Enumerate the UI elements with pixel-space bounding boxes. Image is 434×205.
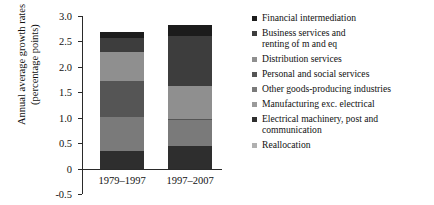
y-tick: -0.5 [78,194,82,195]
legend-label: Financial intermediation [262,12,356,23]
bar-segment[interactable] [168,146,212,168]
bar-segment[interactable] [100,52,144,81]
legend-label: Manufacturing exc. electrical [262,98,375,109]
legend-label: Distribution services [262,53,342,64]
y-tick-label: 2.5 [59,36,72,47]
bar-segment[interactable] [100,151,144,168]
y-axis-line [82,16,83,194]
legend-swatch-icon [252,31,257,36]
legend-swatch-icon [252,102,257,107]
legend-label: Other goods-producing industries [262,83,391,94]
legend-item[interactable]: Manufacturing exc. electrical [252,98,432,109]
y-tick-label: 1.0 [59,112,72,123]
bar-segment[interactable] [168,120,212,146]
bar-segment[interactable] [168,86,212,120]
y-tick-label: 2.0 [59,61,72,72]
bar-segment[interactable] [100,32,144,39]
legend-swatch-icon [252,143,257,148]
legend-item[interactable]: Distribution services [252,53,432,64]
y-tick: 2.5 [78,41,82,42]
legend-label: Personal and social services [262,68,369,79]
x-axis-label: 1997–2007 [166,175,213,186]
legend-swatch-icon [252,87,257,92]
legend-item[interactable]: Personal and social services [252,68,432,79]
y-tick-label: -0.5 [55,189,72,200]
legend-swatch-icon [252,57,257,62]
y-tick-label: 3.0 [59,11,72,22]
y-tick: 1.5 [78,92,82,93]
y-tick: 0.5 [78,143,82,144]
plot-area: 3.02.52.01.51.00.50-0.5 1979–19971997–20… [82,16,222,194]
y-axis-title: Annual average growth rates (percentage … [16,0,41,145]
legend-item[interactable]: Electrical machinery, post and communica… [252,113,432,136]
bar-segment[interactable] [168,119,212,120]
y-tick-label: 0 [67,163,72,174]
bar-segment[interactable] [168,36,212,85]
y-tick: 3.0 [78,16,82,17]
legend-swatch-icon [252,117,257,122]
bar-segment[interactable] [100,81,144,117]
x-axis-label: 1979–1997 [98,175,145,186]
legend-label: Business services and renting of m and e… [262,27,346,50]
legend-item[interactable]: Business services and renting of m and e… [252,27,432,50]
legend-item[interactable]: Reallocation [252,139,432,150]
bar-1[interactable] [100,16,144,194]
legend-item[interactable]: Financial intermediation [252,12,432,23]
chart-legend: Financial intermediationBusiness service… [252,12,432,154]
bar-segment[interactable] [100,38,144,51]
y-tick-label: 0.5 [59,138,72,149]
legend-label: Reallocation [262,139,310,150]
y-tick: 2.0 [78,67,82,68]
y-tick: 1.0 [78,118,82,119]
legend-swatch-icon [252,72,257,77]
bar-segment[interactable] [100,117,144,151]
legend-swatch-icon [252,16,257,21]
chart-figure: Annual average growth rates (percentage … [0,0,434,205]
y-tick-label: 1.5 [59,87,72,98]
legend-item[interactable]: Other goods-producing industries [252,83,432,94]
bar-2[interactable] [168,16,212,194]
legend-label: Electrical machinery, post and communica… [262,113,378,136]
bar-segment[interactable] [168,25,212,36]
